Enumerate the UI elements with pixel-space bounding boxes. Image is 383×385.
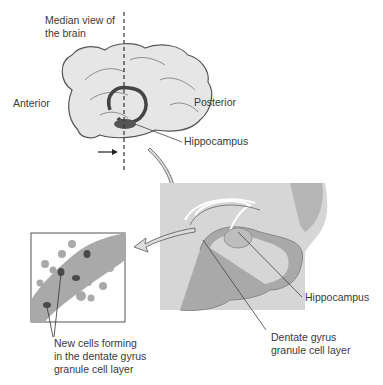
label-line: granule cell layer (54, 363, 146, 376)
label-hippocampus-brain: Hippocampus (184, 135, 248, 148)
hippocampus-region (114, 119, 136, 129)
brain-median-view (62, 44, 211, 138)
label-new-cells: New cells forming in the dentate gyrus g… (54, 337, 146, 376)
label-line: Median view of (45, 14, 115, 27)
label-line: the brain (45, 27, 115, 40)
hippocampus-cross-section (160, 183, 327, 311)
label-line: Dentate gyrus (271, 331, 350, 344)
label-hippocampus-section: Hippocampus (305, 291, 369, 304)
label-line: granule cell layer (271, 344, 350, 357)
inset-cell-layer (31, 233, 125, 322)
label-line: in the dentate gyrus (54, 350, 146, 363)
label-line: New cells forming (54, 337, 146, 350)
label-dentate-gyrus: Dentate gyrus granule cell layer (271, 331, 350, 357)
label-median-view: Median view of the brain (45, 14, 115, 40)
label-anterior: Anterior (13, 97, 50, 110)
diagram-canvas (0, 0, 383, 385)
label-posterior: Posterior (194, 96, 236, 109)
